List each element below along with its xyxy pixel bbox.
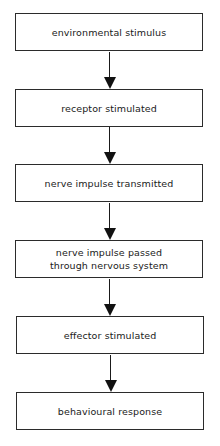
node-behavioural-response: behavioural response [16, 392, 204, 430]
node-label: behavioural response [58, 405, 162, 418]
node-nerve-impulse-transmitted: nerve impulse transmitted [15, 164, 203, 202]
arrow-down-icon [107, 52, 113, 89]
node-label: receptor stimulated [61, 102, 157, 115]
node-environmental-stimulus: environmental stimulus [15, 13, 203, 51]
node-label: environmental stimulus [52, 26, 166, 39]
arrow-down-icon [107, 203, 113, 240]
node-label: nerve impulse transmitted [45, 177, 174, 190]
arrow-down-icon [108, 355, 114, 392]
node-label: effector stimulated [64, 329, 157, 342]
node-label: nerve impulse passed through nervous sys… [50, 246, 168, 272]
node-nerve-impulse-passed: nerve impulse passed through nervous sys… [15, 240, 203, 278]
node-receptor-stimulated: receptor stimulated [15, 89, 203, 127]
node-effector-stimulated: effector stimulated [16, 316, 204, 354]
arrow-down-icon [107, 279, 113, 316]
arrow-down-icon [107, 127, 113, 164]
